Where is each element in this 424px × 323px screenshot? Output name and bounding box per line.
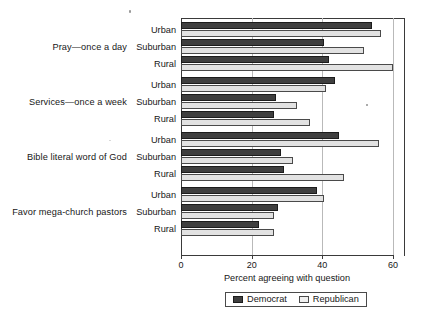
bar-republican [181, 174, 344, 181]
subgroup-label-rural: Rural [154, 170, 176, 179]
bar-democrat [181, 204, 278, 211]
subgroup-label-urban: Urban [151, 136, 176, 145]
bar-republican [181, 85, 326, 92]
x-tick-40 [322, 255, 323, 259]
group-label: Favor mega-church pastors [0, 208, 127, 217]
legend-entry-republican: Republican [299, 295, 359, 304]
bar-democrat [181, 221, 259, 228]
gridline-60 [393, 18, 394, 255]
subgroup-label-urban: Urban [151, 191, 176, 200]
legend-swatch-republican [299, 296, 309, 303]
bar-republican [181, 195, 324, 202]
scan-speck [109, 140, 111, 141]
bar-democrat [181, 166, 284, 173]
subgroup-label-suburban: Suburban [136, 43, 176, 52]
legend-label-republican: Republican [313, 295, 359, 304]
subgroup-label-suburban: Suburban [136, 208, 176, 217]
x-tick-label-0: 0 [178, 261, 183, 270]
bar-republican [181, 140, 379, 147]
x-tick-label-60: 60 [388, 261, 398, 270]
x-tick-0 [181, 255, 182, 259]
x-axis-title: Percent agreeing with question [181, 274, 393, 283]
subgroup-label-rural: Rural [154, 60, 176, 69]
bar-republican [181, 229, 274, 236]
bar-republican [181, 212, 274, 219]
legend: Democrat Republican [225, 292, 367, 307]
bar-republican [181, 119, 310, 126]
bar-democrat [181, 22, 372, 29]
x-tick-20 [252, 255, 253, 259]
subgroup-label-urban: Urban [151, 26, 176, 35]
group-label: Pray—once a day [0, 43, 127, 52]
subgroup-label-rural: Rural [154, 115, 176, 124]
group-label: Bible literal word of God [0, 153, 127, 162]
bar-democrat [181, 132, 339, 139]
bar-democrat [181, 39, 324, 46]
subgroup-labels: UrbanSuburbanRuralUrbanSuburbanRuralUrba… [130, 0, 176, 323]
bar-democrat [181, 187, 317, 194]
subgroup-label-rural: Rural [154, 225, 176, 234]
bar-democrat [181, 111, 274, 118]
group-label: Services—once a week [0, 98, 127, 107]
subgroup-label-urban: Urban [151, 81, 176, 90]
bar-democrat [181, 77, 335, 84]
plot-right-border [404, 18, 405, 256]
legend-label-democrat: Democrat [247, 295, 287, 304]
bar-democrat [181, 94, 276, 101]
bar-democrat [181, 149, 281, 156]
legend-entry-democrat: Democrat [233, 295, 287, 304]
scan-speck [129, 10, 131, 13]
bar-republican [181, 157, 293, 164]
subgroup-label-suburban: Suburban [136, 98, 176, 107]
plot-top-border-extension [393, 18, 404, 19]
bar-republican [181, 64, 393, 71]
bar-republican [181, 47, 364, 54]
scan-speck [366, 104, 368, 106]
legend-swatch-democrat [233, 296, 243, 303]
bar-republican [181, 102, 297, 109]
bar-chart: Pray—once a dayServices—once a weekBible… [0, 0, 424, 323]
subgroup-label-suburban: Suburban [136, 153, 176, 162]
x-tick-label-20: 20 [247, 261, 257, 270]
x-axis-line [181, 255, 393, 256]
bar-republican [181, 30, 381, 37]
x-tick-60 [393, 255, 394, 259]
x-tick-label-40: 40 [317, 261, 327, 270]
bar-democrat [181, 56, 329, 63]
